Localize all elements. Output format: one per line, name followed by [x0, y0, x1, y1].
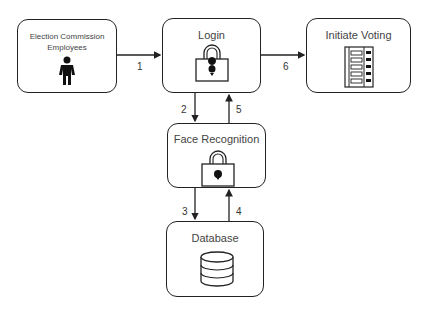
label-line-2: Employees	[18, 42, 116, 53]
person-icon	[58, 56, 76, 86]
label-line-1: Election Commission	[18, 31, 116, 42]
padlock-icon	[201, 149, 235, 187]
padlock-icon	[195, 43, 229, 83]
edge-label-5: 5	[236, 104, 242, 115]
voting-machine-icon	[344, 46, 374, 88]
node-database-label: Database	[167, 232, 263, 244]
edge-label-3: 3	[182, 206, 188, 217]
edge-label-2: 2	[181, 104, 187, 115]
node-face-recognition: Face Recognition	[167, 123, 266, 188]
node-initiate-voting: Initiate Voting	[306, 18, 411, 93]
node-login: Login	[162, 18, 261, 93]
node-employees-label: Election Commission Employees	[18, 31, 116, 53]
node-employees: Election Commission Employees	[17, 19, 117, 93]
node-database: Database	[166, 221, 264, 297]
node-initiate-voting-label: Initiate Voting	[307, 29, 410, 41]
database-icon	[199, 250, 235, 288]
node-login-label: Login	[163, 29, 260, 41]
edge-label-6: 6	[283, 61, 289, 72]
node-face-recognition-label: Face Recognition	[168, 133, 265, 145]
edge-label-4: 4	[236, 206, 242, 217]
edge-label-1: 1	[137, 61, 143, 72]
